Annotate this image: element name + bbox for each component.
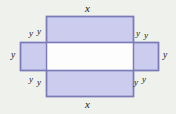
label-corner-top-right-y1: y [136, 29, 140, 38]
label-corner-top-left-y2: y [37, 27, 41, 36]
geometry-figure: x x y y y y y y y y y y [0, 0, 176, 114]
label-corner-top-left-y1: y [29, 29, 33, 38]
label-corner-top-left: y y [29, 27, 55, 41]
label-corner-top-right: y y [136, 27, 162, 41]
label-corner-top-right-y2: y [144, 31, 148, 40]
overlap-region [47, 43, 133, 70]
label-left-y: y [11, 51, 15, 61]
label-corner-bottom-left-y1: y [29, 75, 33, 84]
label-corner-bottom-left: y y [29, 75, 55, 89]
figure-canvas [0, 0, 176, 114]
label-corner-bottom-right-y1: y [134, 78, 138, 87]
label-corner-bottom-right: y y [134, 75, 160, 89]
label-top-x: x [85, 3, 90, 14]
label-bottom-x: x [85, 99, 90, 110]
label-right-y: y [163, 51, 167, 61]
label-corner-bottom-left-y2: y [37, 78, 41, 87]
label-corner-bottom-right-y2: y [142, 75, 146, 84]
